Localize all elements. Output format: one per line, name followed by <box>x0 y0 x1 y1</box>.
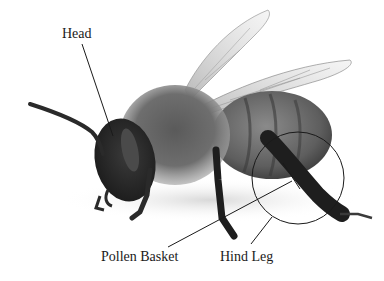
hind-leg-callout-line <box>251 217 272 244</box>
bee-illustration <box>0 0 384 281</box>
bee-diagram: Head Pollen Basket Hind Leg <box>0 0 384 281</box>
head-callout-line <box>82 44 113 136</box>
antenna <box>30 104 103 154</box>
label-head: Head <box>62 27 92 41</box>
label-hind-leg: Hind Leg <box>220 250 273 264</box>
label-pollen-basket: Pollen Basket <box>101 250 178 264</box>
